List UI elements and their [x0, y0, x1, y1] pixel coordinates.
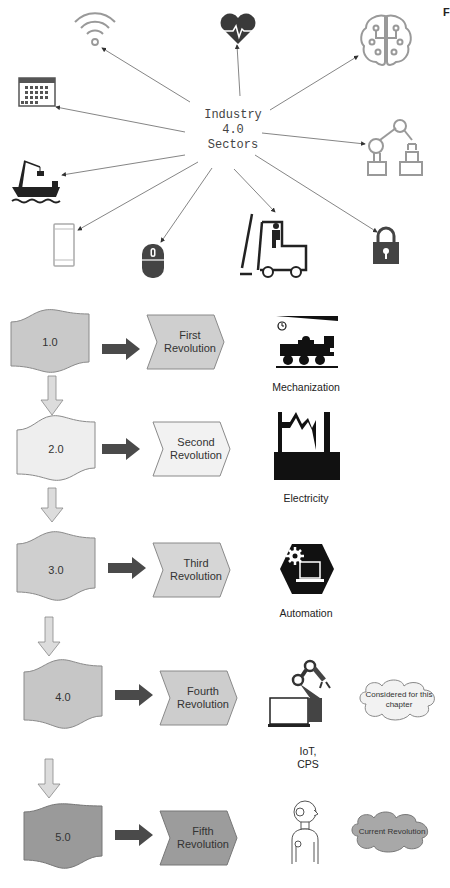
version-label-1: 1.0: [20, 336, 80, 348]
title-line: Second: [164, 436, 228, 449]
wifi-icon: [72, 8, 118, 48]
version-label-2: 2.0: [26, 443, 86, 455]
era-label-iot-cps: IoT, CPS: [280, 745, 336, 771]
title-line: Third: [164, 557, 228, 570]
revolution-title-1: First Revolution: [158, 329, 222, 355]
right-arrow-1: [102, 338, 140, 360]
title-line: Fifth: [171, 825, 235, 838]
iot-robot-laptop-icon: [266, 658, 342, 728]
center-label-line: Sectors: [190, 138, 276, 153]
ai-brain-icon: [358, 12, 414, 68]
calendar-icon: [18, 77, 56, 107]
center-label-line: 4.0: [190, 123, 276, 138]
cloud-note-current: Current Revolution: [350, 827, 434, 837]
sectors-center-label: Industry 4.0 Sectors: [190, 108, 276, 153]
mouse-icon: [140, 242, 166, 280]
era-label-electricity: Electricity: [268, 492, 344, 505]
padlock-icon: [371, 226, 401, 266]
revolution-title-5: Fifth Revolution: [171, 825, 235, 851]
version-label-4: 4.0: [33, 691, 93, 703]
era-line: CPS: [280, 758, 336, 771]
revolution-flow-shapes: [0, 300, 449, 888]
smartphone-icon: [52, 222, 76, 268]
forklift-icon: [238, 212, 310, 278]
note-line: Considered for this: [362, 690, 436, 700]
title-line: Revolution: [158, 342, 222, 355]
revolution-title-4: Fourth Revolution: [171, 685, 235, 711]
era-label-automation: Automation: [268, 607, 344, 620]
version-label-5: 5.0: [33, 831, 93, 843]
era-label-mechanization: Mechanization: [268, 381, 344, 394]
heart-rate-icon: [219, 12, 257, 46]
steam-locomotive-icon: [274, 314, 340, 370]
title-line: First: [158, 329, 222, 342]
humanoid-robot-icon: [286, 800, 326, 866]
title-line: Revolution: [171, 838, 235, 851]
title-line: Fourth: [171, 685, 235, 698]
title-line: Revolution: [164, 449, 228, 462]
era-line: IoT,: [280, 745, 336, 758]
revolution-title-2: Second Revolution: [164, 436, 228, 462]
robot-arm-icon: [364, 118, 428, 178]
note-line: chapter: [362, 700, 436, 710]
version-label-3: 3.0: [26, 564, 86, 576]
title-line: Revolution: [164, 570, 228, 583]
factory-power-icon: [272, 410, 342, 482]
cargo-ship-icon: [10, 153, 62, 205]
automation-hexagon-icon: [278, 542, 336, 596]
title-line: Revolution: [171, 698, 235, 711]
revolution-title-3: Third Revolution: [164, 557, 228, 583]
center-label-line: Industry: [190, 108, 276, 123]
cloud-note-considered: Considered for this chapter: [362, 690, 436, 710]
